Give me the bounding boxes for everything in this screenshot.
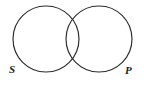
venn-label-s: S: [9, 64, 15, 75]
venn-diagram-canvas: [0, 0, 144, 85]
venn-diagram-figure: S P: [0, 0, 144, 85]
venn-circle-s: [13, 6, 79, 72]
venn-circle-p: [66, 6, 132, 72]
venn-label-p: P: [125, 65, 132, 76]
